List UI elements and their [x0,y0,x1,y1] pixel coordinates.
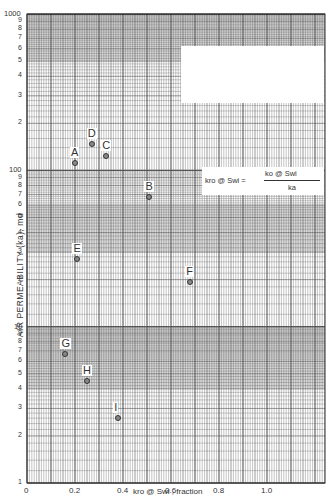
x-tick-label: 0.4 [117,486,128,495]
y-tick-label: 1 [18,478,22,485]
y-tick-label: 8 [18,24,22,31]
data-point-label: B [144,181,153,192]
data-point-marker [146,194,152,200]
data-point-label: E [72,243,81,254]
y-tick-label: 5 [18,56,22,63]
y-tick-label: 100 [9,165,22,174]
formula-fraction-bar [264,180,320,181]
y-tick-label: 6 [18,44,22,51]
data-point-marker [187,279,193,285]
y-tick-label: 3 [18,91,22,98]
data-point-label: G [60,338,71,349]
y-tick-label: 8 [18,181,22,188]
formula-numerator: ko @ Swi [265,169,297,178]
x-tick-label: 0 [24,486,28,495]
y-tick-label: 2 [18,118,22,125]
data-point-label: C [101,140,111,151]
x-tick-label: 0.8 [213,486,224,495]
data-point-marker [84,378,90,384]
data-point-marker [89,141,95,147]
data-point-label: H [82,365,92,376]
y-tick-label: 4 [18,384,22,391]
y-tick-label: 1000 [4,9,21,18]
x-tick-label: 0.2 [69,486,80,495]
y-tick-label: 6 [18,356,22,363]
y-tick-label: 3 [18,403,22,410]
data-point-label: F [185,266,194,277]
y-tick-label: 6 [18,200,22,207]
y-tick-label: 4 [18,71,22,78]
formula-denominator: ka [288,183,296,192]
x-axis-title: kro @ Swi , fraction [133,487,202,496]
y-tick-label: 7 [18,33,22,40]
data-point-marker [103,153,109,159]
x-tick-label: 1.0 [261,486,272,495]
data-point-label: D [87,128,97,139]
y-tick-label: 2 [18,431,22,438]
formula-box: kro @ Swi = ko @ Swi ka [202,167,324,195]
y-tick-label: 8 [18,337,22,344]
y-tick-label: 5 [18,369,22,376]
formula-lhs: kro @ Swi = [205,176,246,185]
y-tick-label: 7 [18,190,22,197]
data-point-label: A [70,147,79,158]
data-point-label: I [113,402,118,413]
blank-panel [181,46,324,103]
y-tick-label: 7 [18,346,22,353]
y-axis-title: AIR PERMEABILITY (ka), md [15,213,25,337]
